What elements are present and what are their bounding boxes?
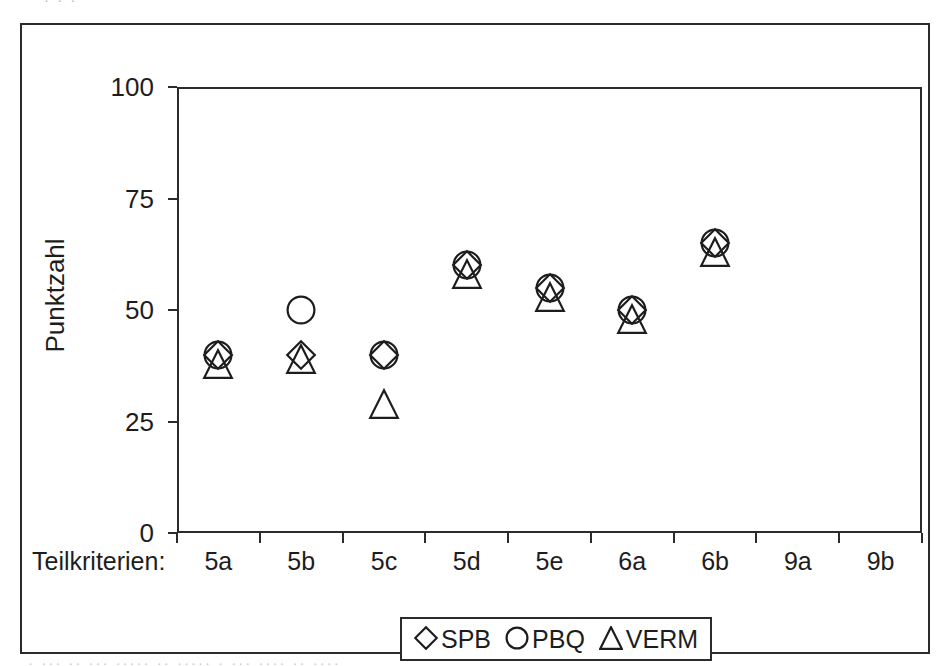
- x-axis-tick: [921, 533, 923, 543]
- scan-artifact-top: · · ·: [44, 0, 77, 3]
- x-axis-tick-label: 9a: [763, 549, 833, 574]
- x-axis-tick-label: 5a: [183, 549, 253, 574]
- x-axis-title: Teilkriterien:: [32, 549, 165, 574]
- y-axis-title: Punktzahl: [40, 211, 71, 381]
- x-axis-tick-label: 5e: [515, 549, 585, 574]
- scan-artifact-bottom: · ··· ·· ··· ····· ·· ····· · ··· ···· ·…: [28, 654, 341, 666]
- x-axis-tick: [755, 533, 757, 543]
- triangle-icon: [599, 626, 625, 652]
- y-axis-tick-label-text: 100: [96, 74, 154, 100]
- x-axis-tick: [507, 533, 509, 543]
- x-axis-tick: [673, 533, 675, 543]
- x-axis-tick: [838, 533, 840, 543]
- legend-label: VERM: [626, 627, 698, 652]
- y-axis-tick-label-text: 0: [96, 520, 154, 546]
- legend-entry-pbq[interactable]: PBQ: [505, 626, 585, 652]
- x-axis-tick-label: 5c: [349, 549, 419, 574]
- chart-screenshot: · · · Punktzahl Teilkriterien: 025507510…: [0, 0, 945, 666]
- x-axis-tick: [176, 533, 178, 543]
- y-axis-tick-label-text: 75: [96, 186, 154, 212]
- y-axis-tick: [168, 309, 177, 311]
- x-axis-tick-label: 5b: [266, 549, 336, 574]
- y-axis-tick-label-text: 50: [96, 297, 154, 323]
- x-axis-tick: [342, 533, 344, 543]
- legend-label: SPB: [441, 627, 491, 652]
- legend-entry-verm[interactable]: VERM: [599, 626, 698, 652]
- x-axis-tick-label: 9b: [846, 549, 916, 574]
- chart-legend: SPBPBQVERM: [400, 617, 712, 661]
- plot-area: [177, 87, 922, 533]
- legend-label: PBQ: [532, 627, 585, 652]
- y-axis-tick: [168, 198, 177, 200]
- x-axis-tick-label: 5d: [432, 549, 502, 574]
- circle-icon: [505, 626, 531, 652]
- x-axis-tick: [424, 533, 426, 543]
- x-axis-tick: [590, 533, 592, 543]
- y-axis-tick-label-text: 25: [96, 409, 154, 435]
- y-axis-tick: [168, 86, 177, 88]
- legend-entry-spb[interactable]: SPB: [414, 626, 491, 652]
- x-axis-tick-label: 6b: [680, 549, 750, 574]
- y-axis-tick: [168, 421, 177, 423]
- figure-frame: Punktzahl Teilkriterien: 0255075100 5a5b…: [20, 23, 930, 654]
- diamond-icon: [414, 626, 440, 652]
- x-axis-tick-label: 6a: [597, 549, 667, 574]
- x-axis-tick: [259, 533, 261, 543]
